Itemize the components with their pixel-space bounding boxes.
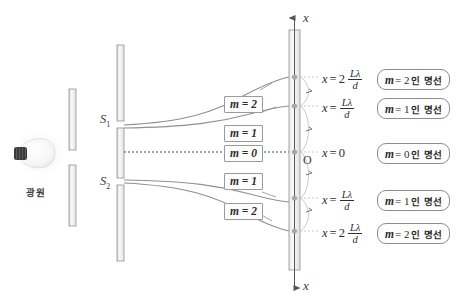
ray-label-m0-text: m = 0: [230, 147, 257, 159]
callout-m0-m: m: [385, 148, 394, 160]
intensity-tick-marks: [306, 89, 312, 212]
equation-m2-upper-rel: =: [330, 72, 337, 87]
equation-m2-lower: x = 2 Lλ d: [322, 222, 362, 245]
callout-m0-text: 인 명선: [411, 147, 441, 161]
equation-m1-lower-fraction: Lλ d: [340, 189, 354, 212]
ray-paths: [124, 77, 289, 231]
callout-m2-upper-rel: = 2: [395, 74, 409, 86]
callout-m0-rel: = 0: [395, 148, 409, 160]
ray-label-m2-lower-text: m = 2: [230, 205, 257, 217]
equation-m0-rel: =: [330, 146, 337, 161]
ray-label-m2-lower: m = 2: [224, 203, 263, 220]
callout-m0: m = 0 인 명선: [377, 143, 450, 164]
callout-m1-upper-text: 인 명선: [411, 102, 441, 116]
callout-m2-upper-m: m: [385, 74, 394, 86]
callout-m1-lower-m: m: [385, 195, 394, 207]
single-slit-plate: [69, 89, 76, 226]
callout-m2-lower-m: m: [385, 228, 394, 240]
slit-s1-sub: 1: [106, 120, 110, 129]
equation-m2-lower-num: Lλ: [348, 222, 362, 234]
lightbulb-icon: [12, 129, 66, 177]
ray-label-m2-upper: m = 2: [224, 96, 263, 113]
ray-m2-lower: [124, 183, 289, 231]
callout-m1-upper-rel: = 1: [395, 103, 409, 115]
double-slit-plate: [117, 45, 124, 261]
slit-s2-sub: 2: [106, 182, 110, 191]
equation-m1-lower-den: d: [342, 201, 351, 212]
callout-m2-lower-text: 인 명선: [411, 227, 441, 241]
ray-m1-upper: [124, 106, 289, 128]
equation-m2-lower-var: x: [322, 226, 328, 241]
equation-m2-lower-fraction: Lλ d: [348, 222, 362, 245]
equation-m1-lower: x = Lλ d: [322, 189, 354, 212]
slit-label-s2: S2: [100, 175, 110, 191]
equation-m1-lower-var: x: [322, 193, 328, 208]
equation-m2-lower-rel: =: [330, 226, 337, 241]
equation-m2-upper-num: Lλ: [348, 68, 362, 80]
equation-m0-var: x: [322, 146, 328, 161]
callout-m2-lower-rel: = 2: [395, 228, 409, 240]
equation-m2-upper-den: d: [350, 80, 359, 91]
equation-m1-upper-rel: =: [330, 101, 337, 116]
ray-label-m0: m = 0: [224, 145, 263, 162]
equation-m2-lower-den: d: [350, 234, 359, 245]
ray-m2-upper: [124, 77, 289, 125]
equation-m1-lower-rel: =: [330, 193, 337, 208]
callout-m2-lower: m = 2 인 명선: [377, 223, 450, 244]
callout-m1-upper-m: m: [385, 103, 394, 115]
origin-label: O: [303, 154, 312, 166]
callout-m1-lower: m = 1 인 명선: [377, 190, 450, 211]
equation-m1-lower-num: Lλ: [340, 189, 354, 201]
axis-label-top: x: [303, 11, 309, 24]
equation-m2-upper-coef: 2: [339, 72, 345, 87]
ray-label-m1-upper-text: m = 1: [230, 127, 257, 139]
equation-m1-upper-den: d: [342, 109, 351, 120]
ray-label-m1-upper: m = 1: [224, 125, 263, 142]
callout-m1-lower-rel: = 1: [395, 195, 409, 207]
equation-m2-upper: x = 2 Lλ d: [322, 68, 362, 91]
equation-m1-upper-fraction: Lλ d: [340, 97, 354, 120]
equation-m2-lower-coef: 2: [339, 226, 345, 241]
ray-label-m1-lower: m = 1: [224, 173, 263, 190]
ray-label-m2-upper-text: m = 2: [230, 98, 257, 110]
callout-m1-lower-text: 인 명선: [411, 194, 441, 208]
axis-label-bottom: x: [303, 279, 309, 292]
equation-m2-upper-fraction: Lλ d: [348, 68, 362, 91]
light-source-label: 광원: [26, 188, 45, 198]
equation-m1-upper-var: x: [322, 101, 328, 116]
callout-m2-upper: m = 2 인 명선: [377, 69, 450, 90]
ray-label-m1-lower-text: m = 1: [230, 175, 257, 187]
equation-m0-coef: 0: [339, 146, 345, 161]
slit-label-s1: S1: [100, 113, 110, 129]
equation-m1-upper-num: Lλ: [340, 97, 354, 109]
callout-m1-upper: m = 1 인 명선: [377, 98, 450, 119]
equation-m0: x = 0: [322, 146, 345, 161]
equation-m1-upper: x = Lλ d: [322, 97, 354, 120]
ray-m1-lower: [124, 180, 289, 202]
equation-m2-upper-var: x: [322, 72, 328, 87]
diagram-canvas: 광원 S1 S2 x x O m = 2 m = 1 m = 0 m = 1 m…: [0, 0, 465, 304]
callout-m2-upper-text: 인 명선: [411, 73, 441, 87]
